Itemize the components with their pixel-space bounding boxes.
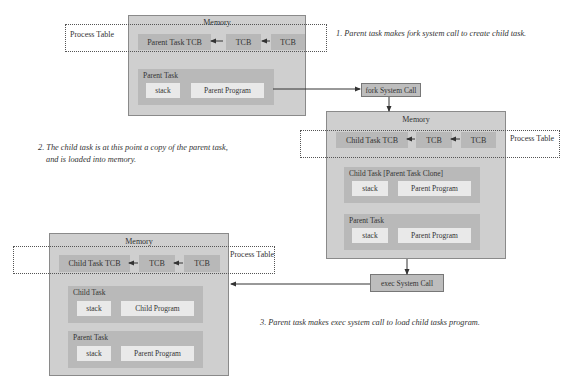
connector-arrows xyxy=(0,0,576,391)
